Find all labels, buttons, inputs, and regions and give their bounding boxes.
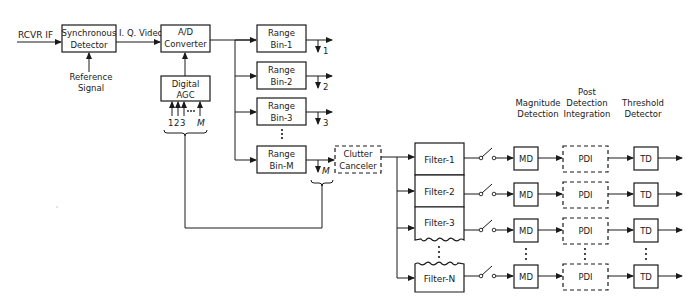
svg-text:Signal: Signal: [78, 83, 104, 93]
range-bin-m-block: Range Bin-M: [257, 146, 306, 173]
threshold-detector-header: Threshold: [621, 98, 664, 108]
agc-input-2: 2: [174, 118, 179, 128]
reference-signal-label: Reference: [70, 72, 113, 82]
clutter-canceler-block: Clutter Canceler: [335, 146, 381, 173]
svg-text:MD: MD: [519, 272, 533, 282]
switch-icon: [482, 148, 492, 157]
agc-input-m: M: [197, 118, 205, 128]
svg-text:TD: TD: [639, 272, 652, 282]
svg-text:PDI: PDI: [578, 226, 592, 236]
svg-text:Synchronous: Synchronous: [62, 28, 117, 38]
range-bin-2-block: Range Bin-2: [257, 62, 306, 89]
svg-text:PDI: PDI: [578, 272, 592, 282]
svg-text:Clutter: Clutter: [343, 149, 373, 159]
svg-text:TD: TD: [639, 190, 652, 200]
svg-text:Canceler: Canceler: [339, 161, 377, 171]
switch-icon: [482, 266, 492, 275]
svg-text:TD: TD: [639, 154, 652, 164]
agc-input-brace: [164, 130, 207, 136]
svg-text:Detection: Detection: [566, 98, 607, 108]
range-bin-3-block: Range Bin-3: [257, 98, 306, 125]
filter-2-label: Filter-2: [424, 187, 455, 197]
channel-row-3: MD PDI TD: [464, 218, 682, 244]
channel-row-1: MD PDI TD: [464, 146, 682, 172]
agc-input-1: 1: [168, 118, 173, 128]
svg-text:Range: Range: [268, 28, 295, 38]
svg-text:MD: MD: [519, 190, 533, 200]
filter-n-label: Filter-N: [424, 274, 456, 284]
ad-converter-block: A/D Converter: [161, 25, 210, 52]
svg-text:Integration: Integration: [564, 109, 611, 119]
svg-text:Range: Range: [268, 65, 295, 75]
range-bin-m-output: M: [322, 166, 330, 176]
channel-row-n: MD PDI TD: [464, 264, 682, 290]
svg-text:Converter: Converter: [164, 39, 207, 49]
svg-text:MD: MD: [519, 226, 533, 236]
range-bin-2-output: 2: [323, 82, 328, 92]
svg-text:Detection: Detection: [517, 109, 558, 119]
svg-text:Bin-1: Bin-1: [270, 40, 292, 50]
iq-video-label: I. Q. Video: [119, 28, 163, 38]
svg-text:Bin-3: Bin-3: [270, 113, 292, 123]
synchronous-detector-block: Synchronous Detector: [62, 25, 117, 52]
agc-input-3: 3: [180, 118, 185, 128]
svg-text:Detector: Detector: [70, 40, 108, 50]
magnitude-detection-header: Magnitude: [515, 98, 560, 108]
svg-text:Range: Range: [268, 149, 295, 159]
filter-1-label: Filter-1: [424, 155, 455, 165]
svg-text:PDI: PDI: [578, 154, 592, 164]
svg-text:A/D: A/D: [178, 27, 194, 37]
range-bin-3-output: 3: [323, 118, 328, 128]
bin-m-brace: [311, 180, 333, 186]
filter-3-label: Filter-3: [424, 218, 455, 228]
svg-text:Detector: Detector: [624, 109, 662, 119]
svg-text:Digital: Digital: [172, 79, 200, 89]
switch-icon: [482, 220, 492, 229]
svg-text:AGC: AGC: [176, 90, 194, 100]
range-bin-1-output: 1: [323, 46, 328, 56]
svg-text:Bin-2: Bin-2: [270, 77, 292, 87]
filter-bank: Filter-1 Filter-2 Filter-3 Filter-N: [415, 143, 464, 292]
svg-text:PDI: PDI: [578, 190, 592, 200]
input-label: RCVR IF: [18, 30, 53, 40]
svg-text:Bin-M: Bin-M: [270, 161, 294, 171]
range-bin-1-block: Range Bin-1: [257, 25, 306, 52]
svg-text:TD: TD: [639, 226, 652, 236]
pdi-header: Post: [578, 87, 596, 97]
switch-icon: [482, 184, 492, 193]
channel-row-2: MD PDI TD: [464, 182, 682, 208]
digital-agc-block: Digital AGC: [161, 76, 210, 101]
svg-text:Range: Range: [268, 101, 295, 111]
svg-text:MD: MD: [519, 154, 533, 164]
radar-signal-processing-diagram: RCVR IF Synchronous Detector Reference S…: [0, 0, 696, 306]
